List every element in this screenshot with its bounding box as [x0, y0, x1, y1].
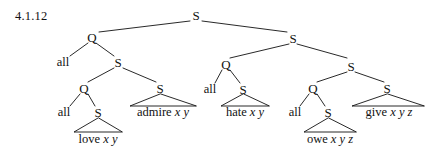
- terminal-give: give x y z: [366, 106, 413, 119]
- terminal-owe: owe x y z: [307, 133, 353, 146]
- edge-innerq-to-all: [70, 94, 80, 106]
- terminal-admire-args: x y: [175, 105, 189, 119]
- terminal-admire: admire x y: [137, 106, 189, 119]
- node-right-deep-s: S: [383, 82, 390, 95]
- node-left-all: all: [57, 56, 70, 69]
- edge-leftq-to-all: [70, 43, 88, 56]
- terminal-love-args: x y: [103, 132, 117, 146]
- syntax-tree-figure: 4.1.12 S Q S all S Q S all S love x y ad…: [0, 0, 436, 155]
- terminal-owe-word: owe: [307, 132, 328, 146]
- node-right-q: Q: [221, 58, 230, 71]
- terminal-hate-args: x y: [250, 105, 264, 119]
- tree-edges: [0, 0, 436, 155]
- terminal-love-word: love: [79, 132, 101, 146]
- edge-root-to-right-s: [202, 21, 287, 32]
- node-left-leaf-s: S: [94, 106, 101, 119]
- terminal-love: love x y: [79, 133, 118, 146]
- node-right-deep-q-s: S: [324, 106, 331, 119]
- terminal-admire-word: admire: [137, 105, 172, 119]
- edge-rightinners-to-q: [317, 72, 347, 82]
- edge-rightinners-to-s: [355, 72, 384, 82]
- edge-lefts-to-q: [88, 68, 114, 82]
- node-left-s: S: [114, 56, 121, 69]
- node-left-q: Q: [87, 31, 96, 44]
- node-right-inner-s: S: [347, 60, 354, 73]
- edge-root-to-left-q: [99, 21, 190, 32]
- node-root-s: S: [192, 9, 199, 22]
- node-right-deep-q: Q: [308, 82, 317, 95]
- terminal-give-args: x y z: [390, 105, 412, 119]
- edge-leftq-to-s: [96, 43, 114, 56]
- example-number: 4.1.12: [15, 9, 47, 24]
- terminal-hate-word: hate: [226, 105, 247, 119]
- terminal-give-word: give: [366, 105, 388, 119]
- node-right-deep-all: all: [289, 106, 302, 119]
- edge-rights-to-s: [297, 44, 347, 58]
- node-left-inner-q: Q: [79, 82, 88, 95]
- node-right-q-s: S: [239, 83, 246, 96]
- edge-rights-to-q: [230, 44, 289, 58]
- node-right-s: S: [289, 32, 296, 45]
- edge-lefts-to-s: [123, 68, 156, 82]
- node-left-inner-s: S: [156, 82, 163, 95]
- triangle-love: [74, 118, 122, 132]
- node-right-q-all: all: [204, 83, 217, 96]
- node-left-inner-all: all: [58, 106, 71, 119]
- triangle-owe: [304, 118, 356, 132]
- terminal-hate: hate x y: [226, 106, 264, 119]
- terminal-owe-args: x y z: [331, 132, 353, 146]
